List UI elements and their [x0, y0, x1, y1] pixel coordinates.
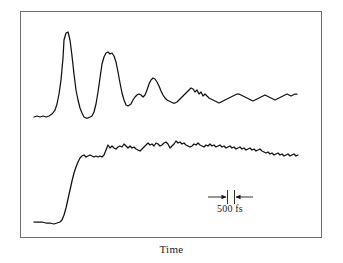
figure-root: 500 fs Time — [0, 0, 343, 263]
scale-bar-label: 500 fs — [192, 203, 268, 215]
x-axis-label: Time — [0, 242, 343, 256]
plot-frame — [20, 11, 322, 238]
